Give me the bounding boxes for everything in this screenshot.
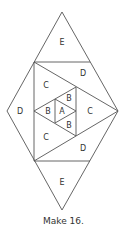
label-b-left: B	[45, 107, 51, 116]
label-d-upper: D	[80, 69, 86, 78]
label-d-left: D	[17, 107, 23, 116]
label-c-upper: C	[43, 81, 49, 90]
label-b-upper: B	[66, 94, 72, 103]
label-d-lower: D	[80, 144, 86, 153]
label-e-bottom: E	[59, 178, 64, 187]
label-c-lower: C	[43, 133, 49, 142]
label-a-center: A	[59, 107, 65, 116]
label-b-lower: B	[66, 121, 72, 130]
label-e-top: E	[59, 38, 64, 47]
tangram-diagram: E E D D D C C C B B B A	[0, 0, 127, 231]
label-c-right: C	[87, 107, 93, 116]
caption: Make 16.	[0, 216, 127, 226]
